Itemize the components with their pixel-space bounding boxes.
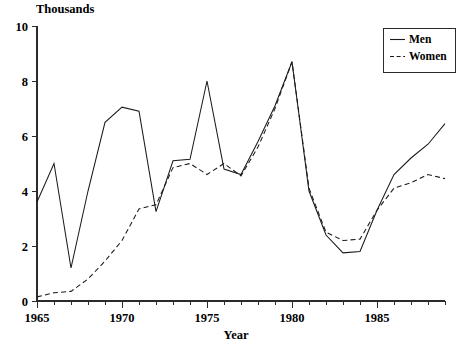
legend-group[interactable]: MenWomen xyxy=(383,28,455,72)
series-line-men xyxy=(37,62,445,268)
chart-canvas: 024681019651970197519801985ThousandsYear… xyxy=(0,0,464,350)
y-tick-label-2: 2 xyxy=(22,240,28,254)
y-tick-label-8: 8 xyxy=(22,75,28,89)
y-tick-label-4: 4 xyxy=(22,185,29,199)
x-tick-label-1970: 1970 xyxy=(110,311,135,325)
x-tick-label-1965: 1965 xyxy=(25,311,50,325)
series-group xyxy=(37,62,445,297)
x-axis-title: Year xyxy=(224,328,249,342)
x-tick-label-1980: 1980 xyxy=(280,311,305,325)
y-tick-label-0: 0 xyxy=(22,295,28,309)
legend-label-women: Women xyxy=(409,50,447,62)
y-tick-label-10: 10 xyxy=(16,20,29,34)
series-line-women xyxy=(37,62,445,297)
x-tick-label-1985: 1985 xyxy=(365,311,390,325)
y-axis-title: Thousands xyxy=(36,2,95,16)
y-tick-label-6: 6 xyxy=(22,130,28,144)
legend-label-men: Men xyxy=(409,33,432,45)
x-tick-label-1975: 1975 xyxy=(195,311,220,325)
line-chart: 024681019651970197519801985ThousandsYear… xyxy=(0,0,464,350)
